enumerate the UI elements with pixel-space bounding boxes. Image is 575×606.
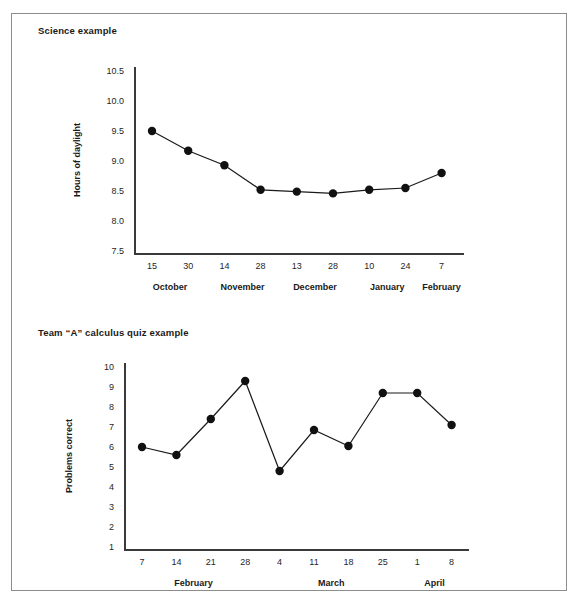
x-tick-label: 18 — [343, 557, 353, 567]
y-tick-label: 7.5 — [111, 246, 124, 256]
data-point-marker — [207, 415, 215, 423]
data-point-marker — [293, 187, 301, 195]
y-tick-label: 2 — [109, 522, 114, 532]
month-group-label: February — [174, 578, 213, 588]
y-tick-label: 1 — [109, 542, 114, 552]
x-tick-label: 10 — [364, 261, 374, 271]
data-point-marker — [379, 389, 387, 397]
x-tick-label: 7 — [439, 261, 444, 271]
data-point-marker — [138, 443, 146, 451]
y-tick-label: 8.5 — [111, 186, 124, 196]
figure-2-month-group-labels: FebruaryMarchApril — [124, 578, 469, 592]
x-tick-label: 15 — [147, 261, 157, 271]
month-group-label: April — [424, 578, 445, 588]
x-tick-label: 30 — [183, 261, 193, 271]
month-group-label: November — [220, 282, 264, 292]
figure-2-title: Team “A” calculus quiz example — [38, 327, 189, 338]
data-point-marker — [447, 421, 455, 429]
x-tick-label: 1 — [415, 557, 420, 567]
y-tick-label: 9.5 — [111, 126, 124, 136]
page-border: Science example Hours of daylight 10.510… — [11, 13, 567, 591]
figure-calculus-quiz-example: Team “A” calculus quiz example Problems … — [12, 310, 568, 590]
y-tick-label: 9 — [109, 382, 114, 392]
data-point-marker — [172, 451, 180, 459]
x-tick-label: 8 — [449, 557, 454, 567]
y-tick-label: 8 — [109, 402, 114, 412]
y-tick-label: 10 — [104, 362, 114, 372]
series-line — [152, 131, 442, 193]
figure-page: Science example Hours of daylight 10.510… — [0, 0, 575, 606]
data-point-marker — [365, 186, 373, 194]
x-tick-label: 28 — [240, 557, 250, 567]
y-tick-label: 7 — [109, 422, 114, 432]
data-point-marker — [220, 161, 228, 169]
month-group-label: March — [318, 578, 345, 588]
x-tick-label: 14 — [171, 557, 181, 567]
data-point-marker — [148, 127, 156, 135]
month-group-label: February — [422, 282, 461, 292]
data-point-marker — [241, 377, 249, 385]
y-tick-label: 8.0 — [111, 216, 124, 226]
series-line — [142, 381, 452, 471]
data-point-marker — [344, 442, 352, 450]
data-point-marker — [401, 184, 409, 192]
figure-science-example: Science example Hours of daylight 10.510… — [12, 14, 568, 294]
figure-1-data-series — [134, 67, 464, 255]
data-point-marker — [275, 467, 283, 475]
y-tick-label: 9.0 — [111, 156, 124, 166]
y-tick-label: 6 — [109, 442, 114, 452]
data-point-marker — [329, 189, 337, 197]
y-tick-label: 10.5 — [106, 66, 124, 76]
data-point-marker — [437, 169, 445, 177]
figure-1-x-tick-labels: 15301428132810247 — [134, 261, 464, 275]
x-tick-label: 21 — [206, 557, 216, 567]
figure-2-y-tick-labels: 10987654321 — [12, 363, 124, 551]
x-tick-label: 7 — [139, 557, 144, 567]
figure-1-plot-area — [134, 67, 464, 255]
x-tick-label: 28 — [328, 261, 338, 271]
figure-2-plot-area — [124, 363, 469, 551]
month-group-label: January — [370, 282, 405, 292]
figure-2-x-tick-labels: 7142128411182518 — [124, 557, 469, 571]
data-point-marker — [413, 389, 421, 397]
x-tick-label: 28 — [256, 261, 266, 271]
x-tick-label: 24 — [400, 261, 410, 271]
figure-2-data-series — [124, 363, 469, 551]
figure-1-month-group-labels: OctoberNovemberDecemberJanuaryFebruary — [134, 282, 464, 296]
x-tick-label: 4 — [277, 557, 282, 567]
data-point-marker — [184, 147, 192, 155]
data-point-marker — [310, 426, 318, 434]
y-tick-label: 5 — [109, 462, 114, 472]
y-tick-label: 3 — [109, 502, 114, 512]
month-group-label: October — [153, 282, 188, 292]
y-tick-label: 10.0 — [106, 96, 124, 106]
figure-1-y-tick-labels: 10.510.09.59.08.58.07.5 — [12, 67, 134, 255]
y-tick-label: 4 — [109, 482, 114, 492]
x-tick-label: 14 — [219, 261, 229, 271]
x-tick-label: 13 — [292, 261, 302, 271]
month-group-label: December — [293, 282, 337, 292]
data-point-marker — [256, 186, 264, 194]
figure-1-title: Science example — [38, 25, 117, 36]
x-tick-label: 11 — [309, 557, 318, 567]
x-tick-label: 25 — [378, 557, 388, 567]
